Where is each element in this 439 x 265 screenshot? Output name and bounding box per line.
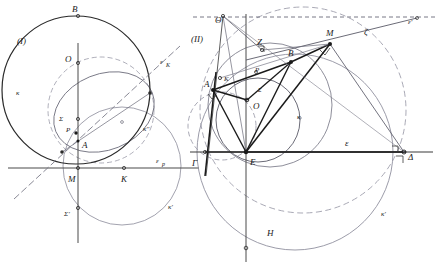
label-Delta: Δ xyxy=(407,152,413,162)
geometry-figure: (I) B O κ Σ P A M K Σ' ε K κ'' ε p κ' xyxy=(0,0,439,265)
label-Sigma-prime-p1: Σ' xyxy=(63,210,70,218)
label-H: H xyxy=(266,228,274,238)
label-A-p1: A xyxy=(81,140,88,150)
label-Sigma-p1: Σ xyxy=(58,115,64,123)
label-Theta: Θ xyxy=(215,15,222,25)
point-M-p2 xyxy=(328,42,332,46)
label-A-p2: A xyxy=(203,79,210,89)
label-B-p2: B xyxy=(288,48,294,58)
label-epsilon-prime: ε' xyxy=(408,18,413,26)
label-epsilon: ε xyxy=(345,138,349,148)
point-A-p2 xyxy=(211,88,215,92)
label-B-p1: B xyxy=(72,4,78,14)
label-O-p2: O xyxy=(253,101,260,111)
geometry-canvas: (I) B O κ Σ P A M K Σ' ε K κ'' ε p κ' xyxy=(0,0,439,265)
point-A-p1 xyxy=(77,140,80,143)
label-K-p2: K xyxy=(223,75,229,83)
point-P-p1 xyxy=(74,131,77,134)
point-intersect-right-p1 xyxy=(148,91,152,95)
label-kappa-prime-p1: κ' xyxy=(168,203,173,211)
panel-two-tag: (II) xyxy=(191,34,203,44)
label-epsilon-p: ε xyxy=(156,157,159,165)
label-Sigma-p2: Σ xyxy=(257,87,262,93)
label-P-p2: P xyxy=(254,66,260,74)
label-M-p1: M xyxy=(67,174,76,184)
label-P-p1: P xyxy=(65,126,71,134)
panel-one-tag: (I) xyxy=(17,36,26,46)
label-E: E xyxy=(249,157,256,167)
label-K-p1: K xyxy=(120,174,128,184)
label-kappa-double-prime-p1: κ'' xyxy=(143,125,150,133)
label-O-p1: O xyxy=(65,54,72,64)
point-B-p2 xyxy=(289,60,293,64)
label-M-p2: M xyxy=(325,28,334,38)
label-kappa-prime-p2: κ' xyxy=(381,210,386,218)
point-intersect-left-p1 xyxy=(60,150,64,154)
label-Gamma: Γ xyxy=(191,158,198,168)
label-epsilon-p-sub: p xyxy=(161,161,165,167)
label-epsilon-k: ε xyxy=(160,58,163,66)
point-E xyxy=(244,150,248,154)
